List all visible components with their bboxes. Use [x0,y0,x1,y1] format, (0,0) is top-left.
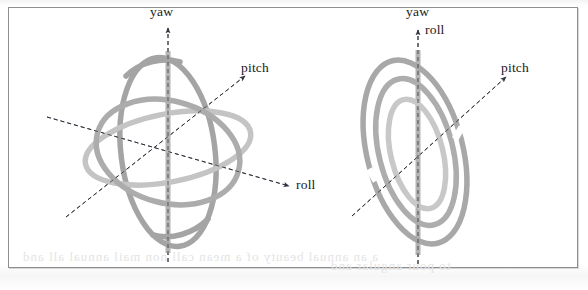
right-ring-pivot-break-left [369,169,376,181]
label-pitch-right: pitch [501,60,529,76]
right-panel-group [346,30,506,264]
bleedthrough-line-1: a an annual beauty of a mean call non ma… [22,249,378,265]
label-roll-left: roll [296,177,316,193]
label-yaw-left: yaw [150,4,173,20]
label-yaw-right: yaw [406,4,429,20]
label-roll-right: roll [425,22,445,38]
bleedthrough-line-2: to pour angular and [330,258,450,274]
figure-root: yaw pitch roll yaw roll pitch a an annua… [0,0,588,290]
label-pitch-left: pitch [241,60,269,76]
gyroscope-diagram [0,0,588,290]
